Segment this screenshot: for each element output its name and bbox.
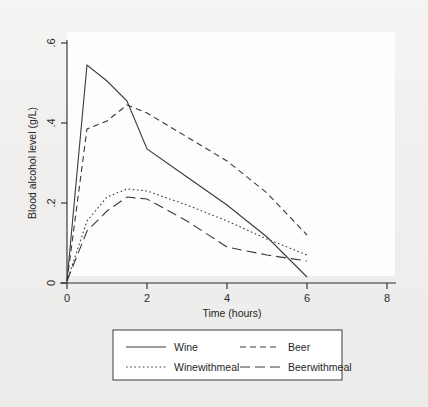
y-tick-label-0.6: .6 — [45, 38, 57, 47]
x-axis-ticks — [67, 283, 387, 289]
x-tick-label-0: 0 — [64, 292, 70, 304]
plot-area-background — [67, 32, 395, 276]
x-tick-label-2: 2 — [144, 292, 150, 304]
y-axis-title: Blood alcohol level (g/L) — [26, 107, 38, 219]
x-tick-label-6: 6 — [304, 292, 310, 304]
legend-label-winewithmeal: Winewithmeal — [174, 361, 239, 373]
y-tick-label-0.2: .2 — [45, 198, 57, 207]
x-axis-title: Time (hours) — [202, 307, 261, 319]
legend-label-beerwithmeal: Beerwithmeal — [288, 361, 352, 373]
legend-label-beer: Beer — [288, 341, 311, 353]
y-tick-label-0.4: .4 — [45, 118, 57, 127]
chart-legend: Wine Beer Winewithmeal Beerwithmeal — [113, 330, 352, 380]
x-tick-label-4: 4 — [224, 292, 230, 304]
chart-figure: .6 .4 .2 0 Blood alcohol level (g/L) 0 2… — [0, 0, 428, 407]
legend-label-wine: Wine — [174, 341, 198, 353]
blood-alcohol-line-chart: .6 .4 .2 0 Blood alcohol level (g/L) 0 2… — [0, 0, 428, 407]
y-tick-label-0: 0 — [45, 280, 57, 286]
y-axis-ticks — [61, 43, 67, 283]
x-tick-label-8: 8 — [384, 292, 390, 304]
